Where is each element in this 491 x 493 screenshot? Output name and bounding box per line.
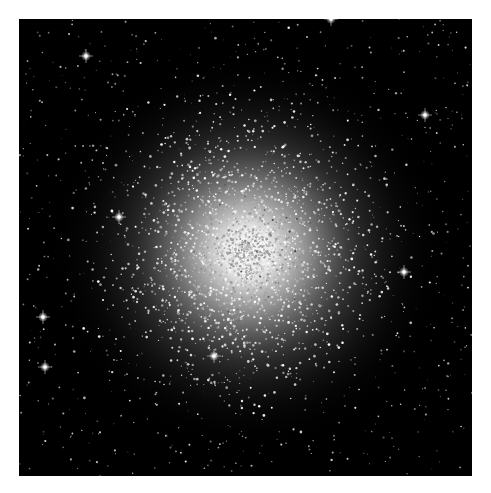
star-cluster-image [19, 19, 472, 476]
cluster-graphic [19, 19, 472, 476]
